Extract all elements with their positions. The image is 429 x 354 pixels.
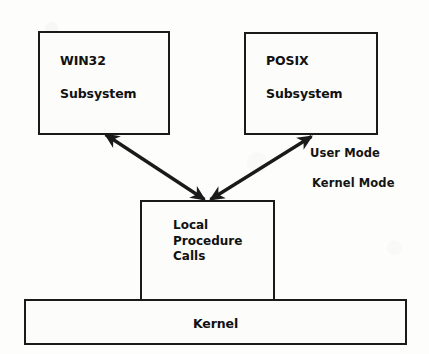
win32-box-subtitle: Subsystem <box>60 86 136 101</box>
kernel-box-label: Kernel <box>26 316 405 331</box>
lpc-box-text-group: Local Procedure Calls <box>173 218 242 265</box>
posix-box-title: POSIX <box>266 53 309 68</box>
lpc-line-3: Calls <box>173 249 242 265</box>
posix-subsystem-box: POSIX Subsystem <box>244 32 378 135</box>
lpc-line-2: Procedure <box>173 234 242 250</box>
win32-box-title: WIN32 <box>60 53 106 68</box>
kernel-mode-label: Kernel Mode <box>312 176 395 190</box>
local-procedure-calls-box: Local Procedure Calls <box>140 200 275 301</box>
arrow-posix-lpc <box>211 137 312 200</box>
lpc-line-1: Local <box>173 218 242 234</box>
user-mode-label: User Mode <box>310 146 380 160</box>
kernel-box: Kernel <box>24 299 407 345</box>
win32-subsystem-box: WIN32 Subsystem <box>38 31 170 135</box>
arrow-win32-lpc <box>106 135 205 200</box>
diagram-canvas: WIN32 Subsystem POSIX Subsystem Local Pr… <box>0 0 429 354</box>
posix-box-subtitle: Subsystem <box>266 86 342 101</box>
